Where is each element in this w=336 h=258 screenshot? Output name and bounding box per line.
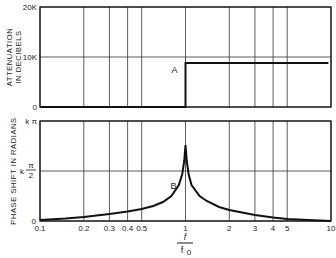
attenuation-y-tick-1: 10K: [23, 53, 38, 62]
x-axis-label-denominator: f: [181, 245, 184, 255]
phase-y-label-text: PHASE SHIFT IN RADIANS: [9, 117, 18, 224]
series-a-line: [40, 63, 328, 107]
attenuation-y-tick-2: 20K: [23, 3, 38, 12]
phase-y-tick-half-den: 2: [29, 171, 34, 180]
phase-x-tick-3: 0.4: [122, 224, 134, 233]
chart: 010K20K A ATTENUATION IN DECIBELS 0 k π …: [0, 0, 336, 258]
phase-x-tick-4: 0.5: [136, 224, 148, 233]
phase-x-tick-0: 0.1: [34, 224, 46, 233]
attenuation-y-ticks: 010K20K: [23, 3, 38, 112]
phase-y-tick-half-num: π: [28, 161, 34, 170]
phase-y-ticks: 0 k π 2 k π: [20, 117, 37, 226]
attenuation-plot: 010K20K A ATTENUATION IN DECIBELS: [5, 3, 331, 112]
phase-x-tick-8: 4: [271, 224, 276, 233]
x-axis-label-denominator-subscript: 0: [187, 248, 192, 257]
phase-y-tick-half: k π 2: [20, 161, 36, 180]
attenuation-y-label-line-1: ATTENUATION: [5, 28, 14, 86]
phase-y-tick-half-prefix: k: [20, 167, 25, 176]
attenuation-y-tick-0: 0: [33, 103, 38, 112]
phase-x-tick-10: 10: [327, 224, 336, 233]
phase-grid: [40, 121, 331, 221]
phase-y-label: PHASE SHIFT IN RADIANS: [9, 117, 18, 224]
phase-x-tick-1: 0.2: [78, 224, 90, 233]
x-axis-label: f f 0: [177, 232, 193, 257]
phase-x-tick-9: 5: [285, 224, 290, 233]
phase-x-tick-7: 3: [253, 224, 258, 233]
x-axis-label-numerator: f: [184, 232, 188, 242]
series-b-label: B: [171, 181, 177, 191]
phase-x-tick-2: 0.3: [104, 224, 116, 233]
phase-x-tick-6: 2: [227, 224, 232, 233]
phase-plot: 0 k π 2 k π 0.10.20.30.40.51234510 B PHA…: [9, 117, 336, 233]
attenuation-y-label: ATTENUATION IN DECIBELS: [5, 28, 23, 86]
attenuation-y-label-line-2: IN DECIBELS: [14, 30, 23, 83]
series-a-label: A: [172, 65, 178, 75]
phase-y-tick-kpi: k π: [25, 117, 37, 126]
